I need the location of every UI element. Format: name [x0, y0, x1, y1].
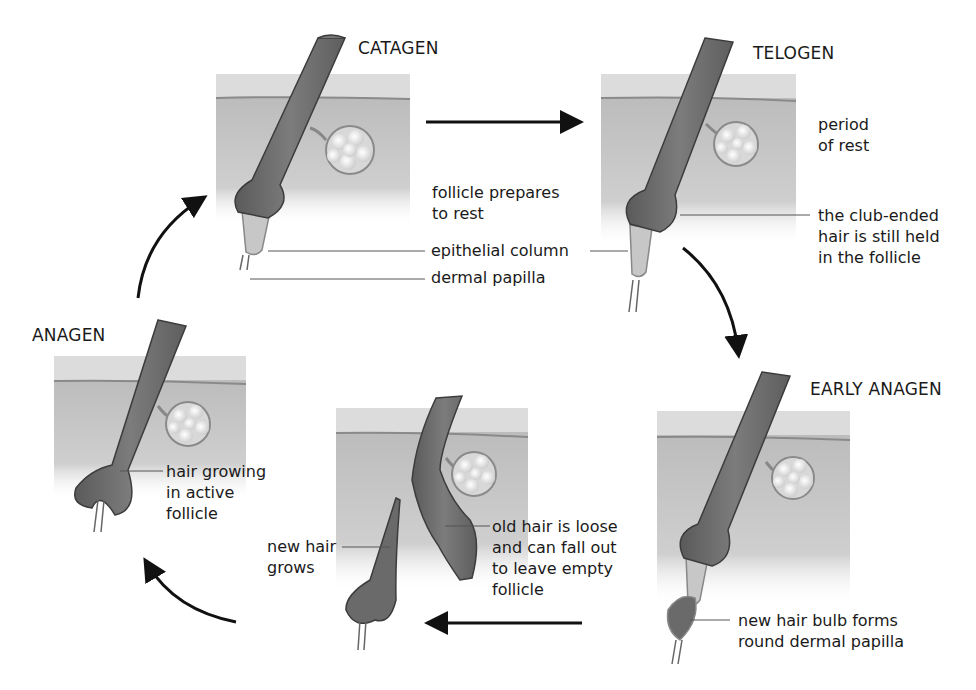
hair-growing-label: hair growing in active follicle: [166, 461, 266, 524]
arrow-shedding-to-anagen-icon: [148, 565, 236, 622]
new-hair-grows-label: new hair grows: [267, 536, 336, 578]
catagen-title: CATAGEN: [358, 38, 439, 58]
dermal-papilla-label: dermal papilla: [431, 267, 545, 288]
arrow-anagen-to-catagen-icon: [138, 200, 200, 298]
old-hair-loose-label: old hair is loose and can fall out to le…: [492, 516, 618, 600]
club-ended-hair-label: the club-ended hair is still held in the…: [818, 205, 940, 268]
new-hair-bulb-label: new hair bulb forms round dermal papilla: [738, 610, 904, 652]
early-anagen-title: EARLY ANAGEN: [810, 379, 942, 399]
hair-cycle-artwork: [0, 0, 976, 690]
telogen-panel: [590, 38, 810, 312]
period-of-rest-label: period of rest: [818, 114, 869, 156]
catagen-panel: [216, 35, 425, 279]
arrow-telogen-to-early-anagen-icon: [683, 248, 738, 350]
anagen-title: ANAGEN: [32, 325, 106, 345]
follicle-prepares-label: follicle prepares to rest: [432, 182, 560, 224]
telogen-title: TELOGEN: [753, 43, 834, 63]
epithelial-column-label: epithelial column: [431, 240, 569, 261]
